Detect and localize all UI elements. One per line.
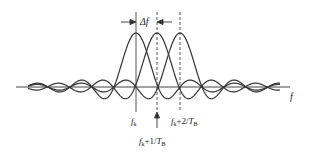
axis-label-f: f <box>290 91 294 102</box>
ofdm-spectrum-diagram: f Δf fk fk+2/TB fk+1/TB <box>0 0 309 158</box>
sinc-curves <box>28 33 280 99</box>
label-fk1: fk+1/TB <box>139 136 166 147</box>
label-fk2: fk+2/TB <box>171 116 198 127</box>
label-fk: fk <box>131 116 137 127</box>
delta-f-label: Δf <box>139 16 150 27</box>
arrow-fk1 <box>155 112 160 128</box>
